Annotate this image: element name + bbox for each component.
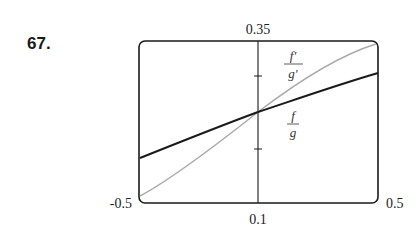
legend-fprime-num: f′ bbox=[290, 48, 297, 63]
legend-f-num: f bbox=[291, 108, 297, 123]
x-center-label: 0.1 bbox=[249, 212, 267, 227]
legend-gprime-den: g′ bbox=[288, 66, 298, 81]
y-max-label: 0.35 bbox=[246, 22, 271, 37]
x-min-label: -0.5 bbox=[110, 196, 132, 211]
series-f-over-g bbox=[140, 73, 378, 158]
legend-g-den: g bbox=[290, 125, 297, 140]
chart: 0.35 -0.5 0.5 0.1 f′ g′ f g bbox=[0, 0, 420, 234]
x-max-label: 0.5 bbox=[386, 196, 404, 211]
